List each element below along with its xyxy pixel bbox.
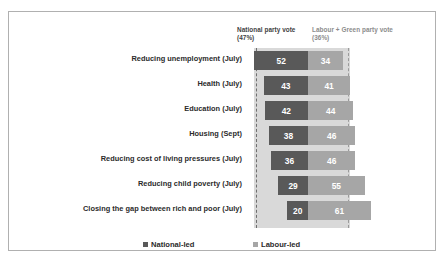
- bar-segment-national[interactable]: 52: [254, 51, 308, 70]
- bar-segment-labour[interactable]: 34: [308, 51, 343, 70]
- legend-swatch-icon-labour: [253, 242, 258, 247]
- legend-label-labour: Labour-led: [261, 240, 300, 249]
- bar-segment-labour[interactable]: 41: [308, 76, 350, 95]
- bar-track: 4341: [264, 76, 351, 95]
- bar-row-label: Reducing cost of living pressures (July): [101, 154, 242, 163]
- bar-track: 3846: [269, 126, 356, 145]
- bar-row: Reducing child poverty (July)2955: [9, 173, 437, 198]
- legend-item-labour-led[interactable]: Labour-led: [253, 240, 300, 249]
- bar-row-label: Education (July): [184, 104, 242, 113]
- bar-track: 4244: [265, 101, 354, 120]
- bar-segment-national[interactable]: 36: [271, 151, 308, 170]
- bar-segment-labour[interactable]: 46: [308, 151, 355, 170]
- bar-track: 3646: [271, 151, 355, 170]
- bar-row: Reducing cost of living pressures (July)…: [9, 148, 437, 173]
- reference-label-national-title: National party vote: [237, 26, 309, 34]
- bar-row: Closing the gap between rich and poor (J…: [9, 198, 437, 223]
- bar-segment-labour[interactable]: 44: [308, 101, 353, 120]
- bar-row: Health (July)4341: [9, 73, 437, 98]
- legend-item-national-led[interactable]: National-led: [143, 240, 194, 249]
- bar-row-label: Closing the gap between rich and poor (J…: [83, 204, 242, 213]
- chart-container: National party vote (47%) Labour + Green…: [8, 11, 436, 251]
- bar-row-label: Health (July): [197, 79, 242, 88]
- legend-swatch-icon-national: [143, 242, 148, 247]
- bar-row: Reducing unemployment (July)5234: [9, 48, 437, 73]
- bar-row-label: Housing (Sept): [189, 129, 242, 138]
- plot-area: Reducing unemployment (July)5234Health (…: [9, 48, 437, 228]
- bar-segment-national[interactable]: 38: [269, 126, 308, 145]
- legend-label-national: National-led: [151, 240, 194, 249]
- bar-track: 5234: [254, 51, 343, 70]
- bar-row: Education (July)4244: [9, 98, 437, 123]
- bar-segment-national[interactable]: 20: [287, 201, 308, 220]
- bar-row-label: Reducing unemployment (July): [131, 54, 242, 63]
- bar-track: 2061: [287, 201, 370, 220]
- reference-label-labour-green-party-vote: Labour + Green party vote (36%): [312, 26, 408, 42]
- reference-label-national-value: (47%): [237, 34, 309, 42]
- reference-label-labour-title: Labour + Green party vote: [312, 26, 408, 34]
- bar-row-label: Reducing child poverty (July): [138, 179, 242, 188]
- bar-segment-national[interactable]: 42: [265, 101, 308, 120]
- bar-segment-national[interactable]: 43: [264, 76, 308, 95]
- bar-row: Housing (Sept)3846: [9, 123, 437, 148]
- reference-label-labour-value: (36%): [312, 34, 408, 42]
- bar-segment-labour[interactable]: 55: [308, 176, 365, 195]
- bar-track: 2955: [278, 176, 365, 195]
- reference-label-national-party-vote: National party vote (47%): [237, 26, 309, 42]
- chart-legend: National-led Labour-led: [9, 238, 437, 254]
- bar-segment-labour[interactable]: 61: [308, 201, 371, 220]
- bar-segment-national[interactable]: 29: [278, 176, 308, 195]
- bar-segment-labour[interactable]: 46: [308, 126, 355, 145]
